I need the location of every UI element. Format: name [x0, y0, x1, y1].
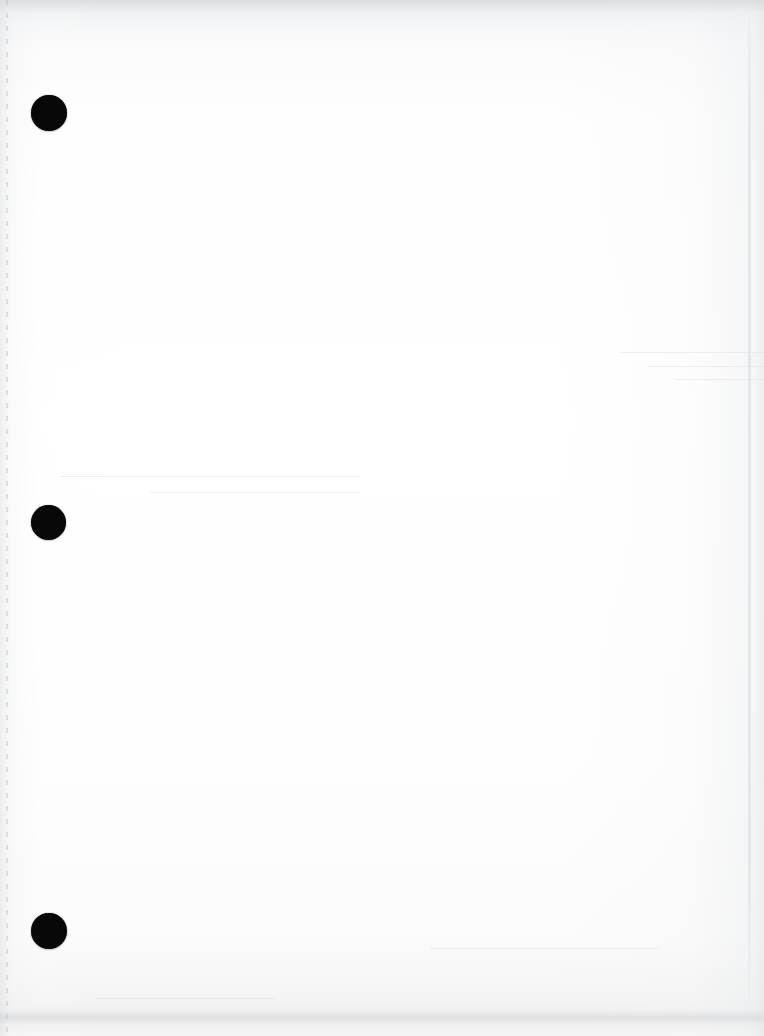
scan-line-left-margin — [6, 0, 8, 1036]
punch-hole-bottom — [31, 913, 67, 949]
scan-streak — [150, 492, 360, 493]
scan-edge-bottom — [0, 1010, 764, 1024]
scan-streak — [96, 998, 276, 999]
scan-streak — [648, 366, 764, 367]
scan-streak — [676, 379, 764, 380]
scan-edge-top — [0, 0, 764, 26]
scan-streak — [60, 476, 360, 477]
scan-line-right-margin — [748, 0, 751, 1036]
punch-hole-top — [31, 95, 67, 131]
paper-horizontal-shading — [0, 0, 764, 1036]
scan-streak — [430, 948, 660, 949]
punch-hole-middle — [31, 505, 66, 540]
paper-background — [0, 0, 764, 1036]
scan-streak — [620, 352, 764, 353]
scanned-page — [0, 0, 764, 1036]
